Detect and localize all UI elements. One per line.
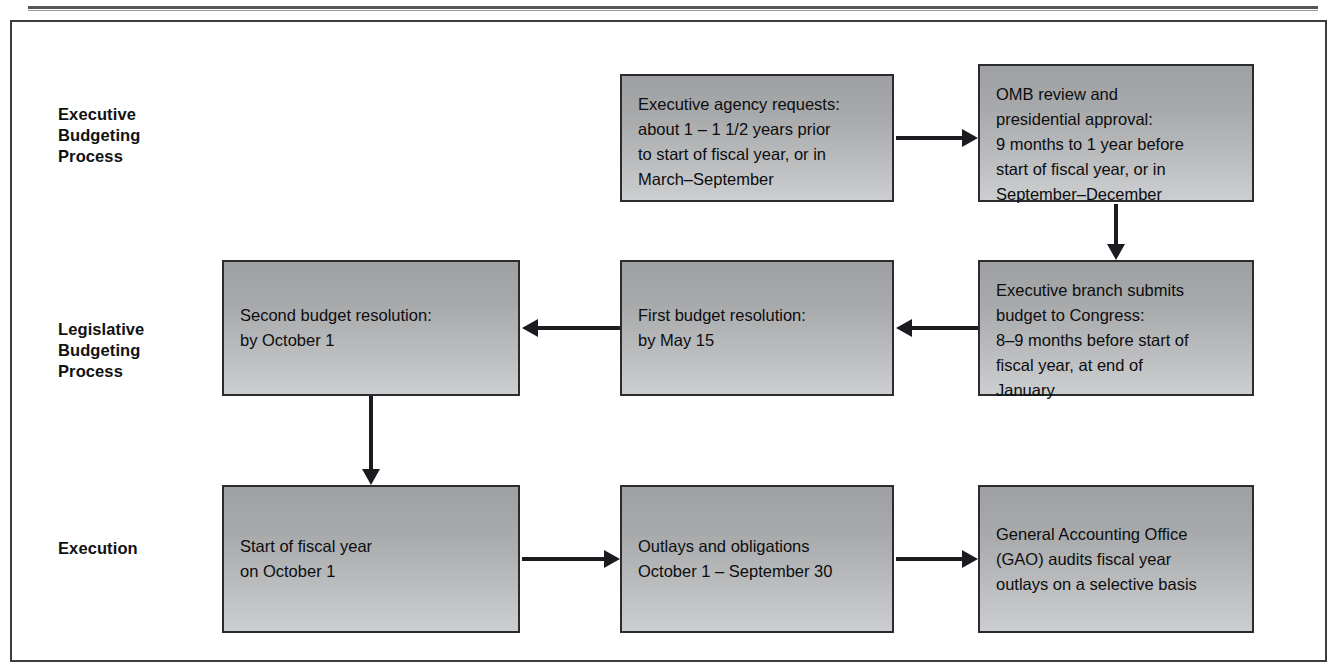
arrow-submit-to-first: [896, 318, 978, 338]
arrowhead-down-icon: [1107, 244, 1125, 260]
arrow-shaft: [536, 326, 620, 330]
arrowhead-right-icon: [604, 550, 620, 568]
arrow-first-to-second: [522, 318, 620, 338]
arrow-shaft: [369, 396, 373, 471]
arrow-outlays-to-gao: [896, 549, 978, 569]
row-label-legislative-budgeting-process: Legislative Budgeting Process: [58, 319, 144, 382]
node-outlays-and-obligations: Outlays and obligations October 1 – Sept…: [620, 485, 894, 633]
node-second-budget-resolution: Second budget resolution: by October 1: [222, 260, 520, 396]
node-start-of-fiscal-year: Start of fiscal year on October 1: [222, 485, 520, 633]
node-agency-requests: Executive agency requests: about 1 – 1 1…: [620, 74, 894, 202]
arrowhead-right-icon: [962, 550, 978, 568]
page-rule-thick: [28, 6, 1318, 9]
arrowhead-left-icon: [522, 319, 538, 337]
arrow-start-to-outlays: [522, 549, 620, 569]
row-label-executive-budgeting-process: Executive Budgeting Process: [58, 104, 140, 167]
arrow-shaft: [522, 557, 606, 561]
page-rule-thin: [28, 10, 1318, 11]
node-first-budget-resolution: First budget resolution: by May 15: [620, 260, 894, 396]
arrow-shaft: [1114, 204, 1118, 246]
arrow-omb-to-submit: [1106, 204, 1126, 260]
arrowhead-left-icon: [896, 319, 912, 337]
figure-frame: Executive Budgeting Process Legislative …: [10, 20, 1327, 662]
node-omb-review: OMB review and presidential approval: 9 …: [978, 64, 1254, 202]
node-executive-branch-submits: Executive branch submits budget to Congr…: [978, 260, 1254, 396]
arrow-agency-to-omb: [896, 128, 978, 148]
arrow-shaft: [910, 326, 978, 330]
arrow-shaft: [896, 136, 964, 140]
arrow-shaft: [896, 557, 964, 561]
arrowhead-down-icon: [362, 469, 380, 485]
arrow-second-to-start: [361, 396, 381, 485]
figure-page: Executive Budgeting Process Legislative …: [0, 0, 1339, 672]
arrowhead-right-icon: [962, 129, 978, 147]
node-gao-audits: General Accounting Office (GAO) audits f…: [978, 485, 1254, 633]
row-label-execution: Execution: [58, 538, 138, 559]
